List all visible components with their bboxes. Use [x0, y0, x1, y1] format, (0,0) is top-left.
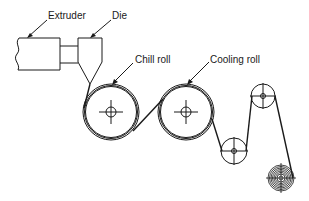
cooling-roll-label: Cooling roll: [210, 54, 260, 66]
diagram-drawing: [0, 0, 309, 201]
wind-up-roll: [266, 163, 296, 193]
diagram-canvas: Extruder Die Chill roll Cooling roll: [0, 0, 309, 201]
idler-roll-lower: [220, 137, 248, 165]
chill-roll: [83, 84, 139, 140]
die-body: [78, 38, 102, 84]
adapter: [60, 46, 78, 63]
leader-lines: [28, 20, 209, 83]
extruder-label: Extruder: [48, 10, 86, 22]
chill-roll-label: Chill roll: [135, 54, 171, 66]
idler-roll-upper: [250, 83, 276, 109]
extruder-body: [15, 38, 60, 70]
cooling-roll: [158, 84, 214, 140]
die-label: Die: [112, 10, 127, 22]
